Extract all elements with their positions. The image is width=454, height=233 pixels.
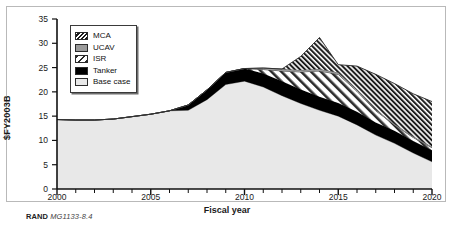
caption-source: RAND <box>26 212 48 221</box>
y-tick-label: 30 <box>26 38 48 48</box>
legend-swatch-tanker <box>75 67 88 75</box>
chart-legend: MCA UCAV ISR Tanker Base case <box>70 25 137 93</box>
figure-caption: RAND MG1133-8.4 <box>26 212 92 221</box>
legend-item-base-case: Base case <box>75 77 130 88</box>
legend-label-tanker: Tanker <box>93 67 117 75</box>
legend-label-isr: ISR <box>93 55 106 63</box>
y-tick-label: 35 <box>26 14 48 24</box>
y-tick-label: 20 <box>26 87 48 97</box>
caption-number: MG1133-8.4 <box>50 212 92 221</box>
legend-label-base-case: Base case <box>93 78 130 86</box>
legend-swatch-ucav <box>75 44 88 52</box>
y-tick-label: 25 <box>26 63 48 73</box>
figure-container: $FY2003B Fiscal year 0510152 <box>0 0 454 233</box>
legend-swatch-base-case <box>75 78 88 86</box>
legend-item-mca: MCA <box>75 31 130 42</box>
legend-item-ucav: UCAV <box>75 42 130 53</box>
x-tick-label: 2015 <box>318 192 358 202</box>
legend-swatch-isr <box>75 55 88 63</box>
x-tick-label: 2020 <box>412 192 452 202</box>
y-tick-label: 5 <box>26 160 48 170</box>
x-tick-label: 2010 <box>225 192 265 202</box>
legend-item-isr: ISR <box>75 54 130 65</box>
y-tick-label: 15 <box>26 111 48 121</box>
x-tick-label: 2005 <box>131 192 171 202</box>
y-tick-label: 10 <box>26 135 48 145</box>
legend-label-mca: MCA <box>93 32 111 40</box>
legend-item-tanker: Tanker <box>75 65 130 76</box>
legend-swatch-mca <box>75 32 88 40</box>
x-tick-label: 2000 <box>37 192 77 202</box>
legend-label-ucav: UCAV <box>93 44 115 52</box>
